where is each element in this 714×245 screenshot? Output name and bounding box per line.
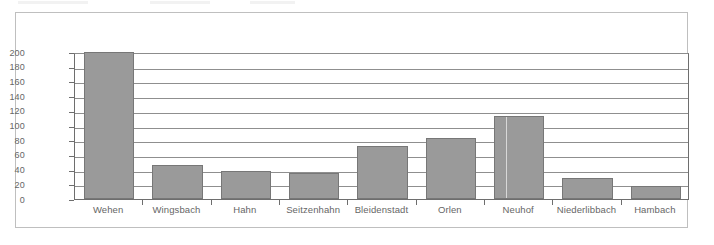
- x-axis-tick-label: Niederlibbach: [552, 204, 620, 215]
- y-axis-tickmark: [69, 97, 74, 98]
- scan-artifact-3: [250, 1, 295, 4]
- bar[interactable]: [221, 171, 272, 199]
- y-axis-tickmark: [69, 68, 74, 69]
- figure: 020406080100120140160180200 WehenWingsba…: [0, 0, 714, 245]
- bar[interactable]: [152, 165, 203, 200]
- x-axis-tick-label: Hahn: [211, 204, 279, 215]
- y-axis-tickmark: [69, 53, 74, 54]
- gridline: [75, 98, 688, 99]
- scan-artifact-1: [18, 1, 88, 4]
- y-axis-tick-label: 20: [0, 181, 25, 190]
- y-axis-tickmark: [69, 185, 74, 186]
- gridline: [75, 128, 688, 129]
- gridline: [75, 83, 688, 84]
- y-axis-tickmark: [69, 141, 74, 142]
- gridline: [75, 69, 688, 70]
- bar[interactable]: [631, 186, 682, 199]
- bar[interactable]: [289, 173, 340, 200]
- y-axis-tick-label: 200: [0, 49, 25, 58]
- y-axis-tickmark: [69, 127, 74, 128]
- bar-seam-artifact: [506, 117, 507, 198]
- y-axis-tick-label: 100: [0, 122, 25, 131]
- y-axis-tick-label: 40: [0, 166, 25, 175]
- gridline: [75, 113, 688, 114]
- x-axis-tick-label: Bleidenstadt: [347, 204, 415, 215]
- x-axis-tick-label: Wingsbach: [142, 204, 210, 215]
- y-axis-tick-label: 0: [0, 196, 25, 205]
- plot-area: [74, 53, 689, 200]
- bar[interactable]: [562, 178, 613, 199]
- x-axis-tick-label: Neuhof: [484, 204, 552, 215]
- y-axis-tick-label: 140: [0, 93, 25, 102]
- y-axis-tick-label: 60: [0, 151, 25, 160]
- bar[interactable]: [426, 138, 477, 199]
- x-axis-tick-label: Seitzenhahn: [279, 204, 347, 215]
- gridline: [75, 142, 688, 143]
- y-axis-tickmark: [69, 171, 74, 172]
- bar[interactable]: [357, 146, 408, 199]
- y-axis-tickmark: [69, 156, 74, 157]
- y-axis-tick-label: 80: [0, 137, 25, 146]
- y-axis-tick-label: 160: [0, 78, 25, 87]
- bar[interactable]: [84, 52, 135, 199]
- scan-artifact-2: [150, 1, 210, 4]
- x-axis-tick-label: Hambach: [621, 204, 689, 215]
- chart-frame: 020406080100120140160180200 WehenWingsba…: [15, 12, 688, 228]
- y-axis-tickmark: [69, 112, 74, 113]
- y-axis-tickmark: [69, 82, 74, 83]
- x-axis-tick-label: Wehen: [74, 204, 142, 215]
- x-axis-tick-label: Orlen: [416, 204, 484, 215]
- y-axis-tick-label: 120: [0, 107, 25, 116]
- bar[interactable]: [494, 116, 545, 199]
- y-axis-tickmark: [69, 200, 74, 201]
- y-axis-tick-label: 180: [0, 63, 25, 72]
